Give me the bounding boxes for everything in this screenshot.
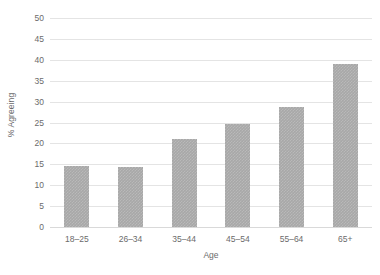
y-axis-tick-label: 10 — [18, 181, 44, 190]
y-axis-tick-label: 20 — [18, 139, 44, 148]
x-axis-tick-label: 35–44 — [157, 231, 211, 247]
x-axis-tick-label: 18–25 — [50, 231, 104, 247]
y-axis-title-label: % Agreeing — [6, 93, 16, 137]
bar[interactable] — [225, 124, 250, 227]
plot-area — [50, 18, 372, 227]
bar[interactable] — [172, 139, 197, 227]
bar-slot — [211, 18, 265, 227]
y-axis-title: % Agreeing — [4, 0, 18, 230]
x-axis-tick-label: 55–64 — [265, 231, 319, 247]
x-axis-tick-label: 45–54 — [211, 231, 265, 247]
gridline — [50, 227, 372, 228]
x-axis-title: Age — [50, 250, 372, 260]
bar[interactable] — [279, 107, 304, 227]
y-axis-tick-label: 45 — [18, 35, 44, 44]
y-axis-tick-label: 50 — [18, 14, 44, 23]
bar-slot — [104, 18, 158, 227]
y-axis-tick-label: 25 — [18, 118, 44, 127]
bar[interactable] — [333, 64, 358, 227]
y-axis-tick-label: 35 — [18, 76, 44, 85]
x-axis-tick-label: 26–34 — [104, 231, 158, 247]
bar[interactable] — [64, 166, 89, 227]
x-axis-tick-label: 65+ — [318, 231, 372, 247]
bar-chart: % Agreeing 05101520253035404550 18–2526–… — [0, 0, 380, 275]
bar-slot — [157, 18, 211, 227]
y-axis-tick-label: 30 — [18, 97, 44, 106]
y-axis-tick-labels: 05101520253035404550 — [18, 18, 44, 227]
bars-group — [50, 18, 372, 227]
y-axis-tick-label: 0 — [18, 223, 44, 232]
x-axis-tick-labels: 18–2526–3435–4445–5455–6465+ — [50, 231, 372, 247]
y-axis-tick-label: 15 — [18, 160, 44, 169]
bar-slot — [50, 18, 104, 227]
y-axis-tick-label: 5 — [18, 202, 44, 211]
bar-slot — [265, 18, 319, 227]
y-axis-tick-label: 40 — [18, 56, 44, 65]
bar-slot — [318, 18, 372, 227]
bar[interactable] — [118, 167, 143, 227]
